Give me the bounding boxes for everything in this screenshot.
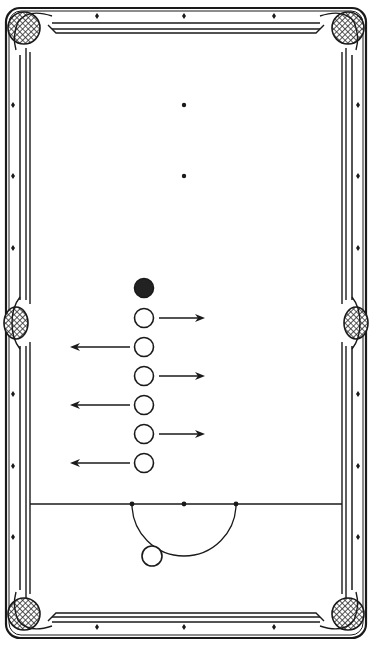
diamond-left [11,463,15,469]
diamond-left [11,173,15,179]
table-drawing [0,0,372,646]
diamond-left [11,102,15,108]
pocket-top-right [320,12,364,50]
diamond-right [356,102,360,108]
object-ball-1 [135,309,154,328]
diamond-left [11,245,15,251]
diamond-bottom [272,624,276,630]
diamond-right [356,391,360,397]
pocket-bottom-right [320,592,364,630]
table-markings [30,103,342,556]
pocket-middle-right [344,297,368,349]
pocket-net [4,307,28,339]
cue-ball [142,546,162,566]
diamond-top [182,13,186,19]
pocket-bottom-left [8,592,52,630]
diamond-top [95,13,99,19]
diamond-left [11,534,15,540]
pocket-net [344,307,368,339]
object-ball-4 [135,396,154,415]
table-spot [182,174,186,178]
pool-table-diagram [0,0,372,646]
outer-frame [6,8,366,638]
diamond-bottom [95,624,99,630]
baulk-spot [182,502,187,507]
diamond-right [356,245,360,251]
object-ball-2 [135,338,154,357]
diamond-top [272,13,276,19]
diamond-right [356,463,360,469]
pocket-top-left [8,12,52,50]
diamond-right [356,534,360,540]
diamond-left [11,391,15,397]
object-ball-3 [135,367,154,386]
pocket-middle-left [4,297,28,349]
object-ball-5 [135,425,154,444]
diamond-right [356,173,360,179]
object-ball-6 [135,454,154,473]
balls [70,279,205,567]
diamond-bottom [182,624,186,630]
black-ball [135,279,154,298]
table-spot [182,103,186,107]
table-rails [6,8,366,638]
